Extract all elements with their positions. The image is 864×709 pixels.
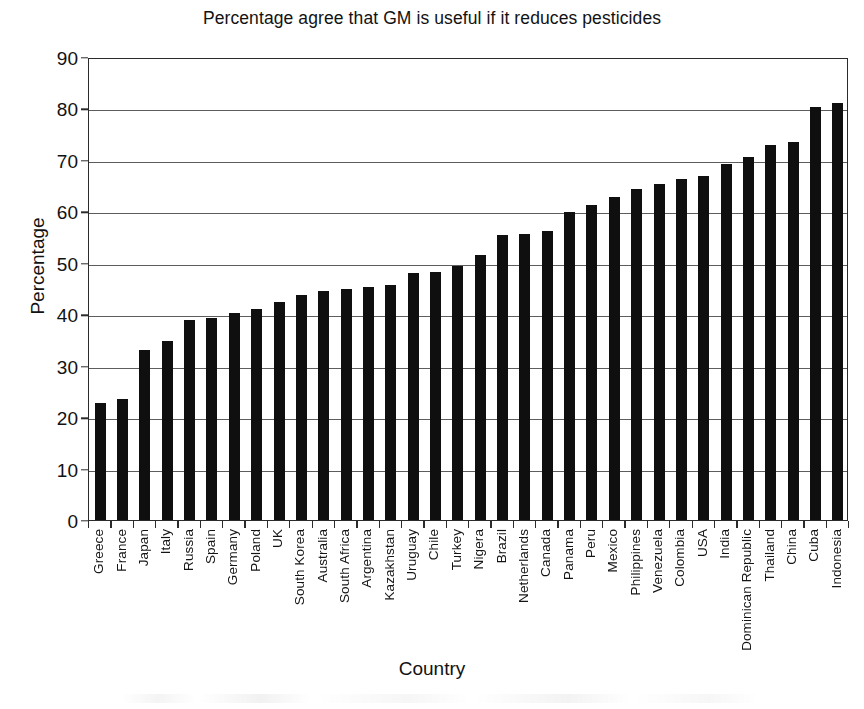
bar	[810, 107, 821, 520]
y-tick-mark-10	[81, 469, 88, 470]
x-category-label: Mexico	[606, 529, 620, 572]
x-category-label: Brazil	[495, 529, 509, 563]
bar	[519, 234, 530, 520]
x-tick-mark	[848, 521, 849, 528]
x-tick-mark	[88, 521, 89, 528]
bar	[765, 145, 776, 520]
x-category-label: South Korea	[293, 529, 307, 605]
x-category-label: South Africa	[338, 529, 352, 603]
y-tick-label-80: 80	[18, 100, 78, 119]
bar	[251, 309, 262, 520]
x-tick-mark	[826, 521, 827, 528]
x-category-label: Spain	[204, 529, 218, 564]
x-tick-mark	[803, 521, 804, 528]
x-axis-tick-marks	[88, 521, 848, 529]
bar	[206, 318, 217, 520]
gridline-60	[89, 213, 847, 214]
bar	[564, 212, 575, 520]
x-tick-mark	[669, 521, 670, 528]
bar	[832, 103, 843, 520]
x-category-label: Nigera	[472, 529, 486, 569]
x-category-label: Venezuela	[651, 529, 665, 593]
bar	[788, 142, 799, 520]
gridline-70	[89, 162, 847, 163]
x-tick-mark	[133, 521, 134, 528]
chart-title: Percentage agree that GM is useful if it…	[0, 8, 864, 29]
x-category-label: Turkey	[450, 529, 464, 570]
bar	[698, 176, 709, 520]
x-category-label: Thailand	[763, 529, 777, 582]
x-tick-mark	[557, 521, 558, 528]
x-tick-mark	[692, 521, 693, 528]
gridline-80	[89, 110, 847, 111]
x-tick-mark	[490, 521, 491, 528]
x-tick-mark	[222, 521, 223, 528]
x-category-label: Japan	[137, 529, 151, 566]
x-category-label: Dominican Republic	[740, 529, 754, 651]
bar	[676, 179, 687, 520]
y-tick-mark-60	[81, 212, 88, 213]
x-category-label: Netherlands	[517, 529, 531, 603]
bar	[430, 272, 441, 520]
bar	[452, 266, 463, 520]
x-tick-mark	[312, 521, 313, 528]
x-category-label: Indonesia	[830, 529, 844, 588]
y-axis-tick-labels: 0102030405060708090	[0, 0, 78, 709]
y-tick-mark-20	[81, 417, 88, 418]
x-category-label: Cuba	[807, 529, 821, 562]
x-tick-mark	[647, 521, 648, 528]
scan-artifact	[120, 694, 760, 703]
y-tick-mark-90	[81, 57, 88, 58]
y-tick-label-10: 10	[18, 460, 78, 479]
x-axis-title: Country	[0, 658, 864, 680]
x-tick-mark	[110, 521, 111, 528]
x-tick-mark	[580, 521, 581, 528]
bar	[274, 302, 285, 520]
x-category-label: Poland	[249, 529, 263, 572]
y-tick-label-90: 90	[18, 49, 78, 68]
x-tick-mark	[535, 521, 536, 528]
x-category-label: Australia	[316, 529, 330, 582]
x-category-label: France	[115, 529, 129, 572]
x-tick-mark	[602, 521, 603, 528]
bar	[184, 320, 195, 520]
x-category-label: China	[785, 529, 799, 565]
x-tick-mark	[401, 521, 402, 528]
y-tick-mark-50	[81, 263, 88, 264]
x-tick-mark	[244, 521, 245, 528]
bar	[95, 403, 106, 520]
plot-area	[88, 58, 848, 521]
y-tick-mark-30	[81, 366, 88, 367]
bar	[609, 197, 620, 520]
x-category-label: Italy	[159, 529, 173, 554]
x-tick-mark	[177, 521, 178, 528]
bar	[631, 189, 642, 520]
bar	[139, 350, 150, 520]
y-tick-mark-70	[81, 160, 88, 161]
y-tick-mark-40	[81, 315, 88, 316]
x-tick-mark	[624, 521, 625, 528]
x-category-label: Chile	[427, 529, 441, 560]
gridline-50	[89, 265, 847, 266]
x-tick-mark	[200, 521, 201, 528]
x-tick-mark	[356, 521, 357, 528]
x-category-label: Philippines	[629, 529, 643, 595]
x-tick-mark	[423, 521, 424, 528]
x-category-label: Panama	[562, 529, 576, 580]
x-category-label: India	[718, 529, 732, 559]
y-tick-label-50: 50	[18, 254, 78, 273]
bar	[743, 157, 754, 520]
x-category-label: Peru	[584, 529, 598, 558]
x-tick-mark	[446, 521, 447, 528]
x-tick-mark	[267, 521, 268, 528]
x-category-label: Colombia	[673, 529, 687, 587]
gridline-20	[89, 419, 847, 420]
x-category-label: UK	[271, 529, 285, 548]
bar	[318, 291, 329, 520]
gridline-30	[89, 368, 847, 369]
x-tick-mark	[468, 521, 469, 528]
bar	[475, 255, 486, 520]
bar	[654, 184, 665, 520]
x-tick-mark	[781, 521, 782, 528]
x-tick-mark	[334, 521, 335, 528]
